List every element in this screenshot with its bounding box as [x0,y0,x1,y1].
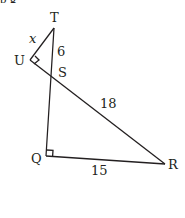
segment-label-TU: x [29,31,37,46]
segment-UR [30,60,165,164]
segment-label-SR: 18 [100,96,117,111]
segment-label-QR: 15 [91,163,108,178]
vertex-label-T: T [50,10,59,25]
triangle-diagram: T U S Q R x 6 18 15 [0,0,185,218]
vertex-label-S: S [58,65,67,80]
right-angle-marker-U [34,56,39,64]
right-angle-marker-Q [46,150,53,156]
vertex-label-Q: Q [31,151,42,166]
vertex-label-U: U [14,53,25,68]
segment-TQ [46,28,54,156]
segment-label-TS: 6 [57,44,65,59]
vertex-label-R: R [168,157,179,172]
